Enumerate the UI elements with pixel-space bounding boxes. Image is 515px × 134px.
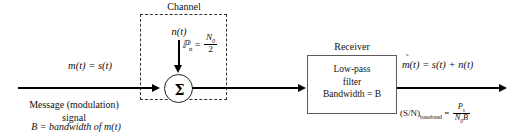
noise-power-label: ℙn = N0 2 bbox=[182, 33, 218, 54]
snr-symbol: (S/N) bbox=[400, 108, 420, 118]
output-signal-expression: (t) = s(t) + n(t) bbox=[410, 59, 474, 70]
block-diagram-figure: Channel m(t) = s(t) Message (modulation)… bbox=[0, 0, 515, 134]
input-wire-arrowhead-icon bbox=[152, 84, 160, 92]
input-caption-line-1: Message (modulation) bbox=[6, 99, 142, 112]
output-signal-label: m̃(t) = s(t) + n(t) bbox=[402, 59, 473, 71]
input-bandwidth-caption: B = bandwidth of m(t) bbox=[6, 121, 146, 132]
snr-equals: = bbox=[444, 108, 449, 118]
noise-power-numerator: N0 bbox=[204, 33, 217, 44]
snr-denominator: N0B bbox=[453, 113, 470, 124]
receiver-input-arrowhead-icon bbox=[298, 84, 306, 92]
noise-wire-arrowhead-icon bbox=[174, 65, 182, 73]
noise-power-subscript: n bbox=[189, 45, 192, 52]
snr-fraction: Ps N0B bbox=[453, 103, 470, 124]
sigma-icon: Σ bbox=[165, 75, 194, 104]
input-signal-wire bbox=[18, 87, 156, 89]
noise-power-equals: = bbox=[195, 39, 201, 50]
snr-baseband-label: (S/N)baseband = Ps N0B bbox=[400, 103, 471, 124]
snr-numerator: Ps bbox=[453, 103, 470, 113]
noise-power-fraction: N0 2 bbox=[204, 33, 217, 54]
channel-title: Channel bbox=[150, 1, 218, 12]
channel-output-wire bbox=[192, 87, 301, 89]
receiver-block-text: Low-pass filter Bandwidth = B bbox=[309, 63, 395, 101]
input-signal-label: m(t) = s(t) bbox=[38, 60, 142, 72]
noise-power-symbol: ℙ bbox=[182, 38, 189, 50]
receiver-title: Receiver bbox=[317, 41, 387, 52]
noise-injection-wire bbox=[178, 40, 180, 67]
output-signal-m-symbol: m̃ bbox=[402, 59, 410, 71]
summing-junction: Σ bbox=[164, 74, 193, 103]
receiver-block-line-3: Bandwidth = B bbox=[309, 88, 395, 101]
receiver-block-line-2: filter bbox=[309, 76, 395, 89]
snr-subscript: baseband bbox=[420, 114, 442, 120]
noise-power-denominator: 2 bbox=[204, 44, 217, 54]
output-wire-arrowhead-icon bbox=[499, 84, 507, 92]
receiver-block-line-1: Low-pass bbox=[309, 63, 395, 76]
receiver-output-wire bbox=[397, 87, 501, 89]
